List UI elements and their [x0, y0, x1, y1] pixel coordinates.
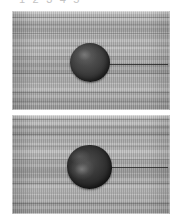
sessile-droplet-upper [70, 43, 110, 82]
sessile-droplet-lower [67, 145, 112, 189]
image-panel-lower [12, 115, 170, 214]
image-panel-upper [12, 11, 170, 110]
droplet-baseline-lower [110, 167, 168, 168]
droplet-baseline-upper [108, 64, 168, 65]
caption-strip: 1 2 3 4 5 [0, 0, 173, 9]
caption-text: 1 2 3 4 5 [19, 0, 82, 5]
figure-root: 1 2 3 4 5 [0, 0, 173, 214]
